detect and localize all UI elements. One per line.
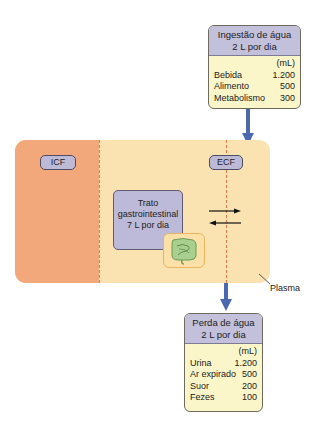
water-loss-table: (mL) Urina 1.200 Ar expirado 500 Suor 20…: [185, 344, 262, 407]
intake-row: Metabolismo 300: [214, 93, 295, 105]
water-loss-box: Perda de água 2 L por dia (mL) Urina 1.2…: [184, 313, 263, 412]
plasma-label: Plasma: [270, 283, 300, 293]
water-loss-header: Perda de água 2 L por dia: [185, 314, 262, 344]
loss-row: Suor 200: [190, 381, 257, 393]
loss-row-label: Ar expirado: [190, 369, 236, 381]
water-intake-header: Ingestão de água 2 L por dia: [209, 26, 300, 56]
loss-arrow-head: [220, 299, 232, 311]
gi-tract-line1: Trato: [114, 198, 182, 209]
intake-row: Alimento 500: [214, 81, 295, 93]
icf-ecf-boundary: [99, 140, 100, 283]
water-loss-title: Perda de água: [187, 317, 260, 329]
loss-row-label: Urina: [190, 358, 212, 370]
ecf-label: ECF: [209, 155, 243, 170]
loss-row-value: 100: [242, 392, 257, 404]
loss-row: Fezes 100: [190, 392, 257, 404]
loss-row-label: Suor: [190, 381, 209, 393]
exchange-arrows: [208, 205, 242, 229]
intake-row: Bebida 1.200: [214, 70, 295, 82]
intake-row-label: Bebida: [214, 70, 242, 82]
loss-row: Ar expirado 500: [190, 369, 257, 381]
loss-row-value: 200: [242, 381, 257, 393]
water-intake-table: (mL) Bebida 1.200 Alimento 500 Metabolis…: [209, 56, 300, 107]
icf-label: ICF: [40, 155, 76, 170]
unit-label: (mL): [214, 58, 295, 70]
arrow-left-icon: [209, 221, 241, 226]
intestine-image-frame: [163, 233, 205, 268]
arrow-right-icon: [209, 209, 241, 214]
unit-label: (mL): [190, 346, 257, 358]
loss-row-label: Fezes: [190, 392, 215, 404]
intake-row-label: Metabolismo: [214, 93, 265, 105]
intake-row-value: 300: [280, 93, 295, 105]
intake-arrow-shaft: [246, 109, 250, 135]
gi-tract-line3: 7 L por dia: [114, 220, 182, 231]
loss-row-value: 500: [242, 369, 257, 381]
intake-row-value: 500: [280, 81, 295, 93]
gi-tract-line2: gastrointestinal: [114, 209, 182, 220]
water-intake-title: Ingestão de água: [211, 29, 298, 41]
loss-row: Urina 1.200: [190, 358, 257, 370]
water-intake-box: Ingestão de água 2 L por dia (mL) Bebida…: [208, 25, 301, 109]
loss-row-value: 1.200: [234, 358, 257, 370]
intestine-icon: [164, 234, 203, 266]
water-loss-subtitle: 2 L por dia: [187, 329, 260, 341]
intake-row-label: Alimento: [214, 81, 249, 93]
water-intake-subtitle: 2 L por dia: [211, 41, 298, 53]
intake-row-value: 1.200: [272, 70, 295, 82]
